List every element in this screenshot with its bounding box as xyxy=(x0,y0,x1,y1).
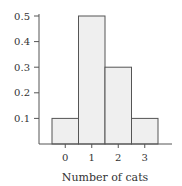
y-tick-label: 0.4 xyxy=(14,36,30,47)
bar-1 xyxy=(79,16,106,144)
y-ticks-group: 0.10.20.30.40.5 xyxy=(14,11,39,124)
x-tick-label: 1 xyxy=(89,152,95,163)
histogram-chart: 0.10.20.30.40.5 0123 Number of cats xyxy=(0,0,182,186)
y-tick-label: 0.5 xyxy=(14,11,30,22)
bar-0 xyxy=(52,118,79,144)
bar-2 xyxy=(105,67,132,144)
bar-3 xyxy=(132,118,159,144)
x-ticks-group: 0123 xyxy=(62,144,148,163)
y-tick-label: 0.3 xyxy=(14,62,30,73)
x-tick-label: 2 xyxy=(115,152,121,163)
x-tick-label: 0 xyxy=(62,152,68,163)
y-tick-label: 0.1 xyxy=(14,113,30,124)
y-tick-label: 0.2 xyxy=(14,87,30,98)
x-axis-title: Number of cats xyxy=(62,171,149,184)
x-tick-label: 3 xyxy=(142,152,148,163)
bars-group xyxy=(52,16,158,144)
